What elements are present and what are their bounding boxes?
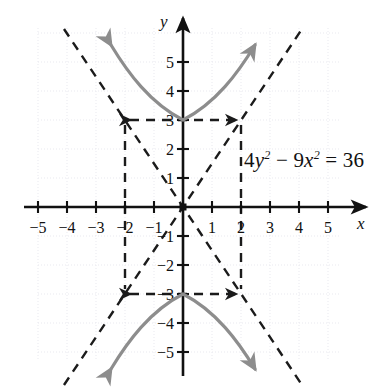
- x-tick-label: 4: [295, 219, 303, 236]
- equation-exp-y: 2: [264, 148, 270, 162]
- equation-annotation: 4y2 − 9x2 = 36: [244, 148, 364, 173]
- origin-marker: [180, 204, 187, 211]
- y-axis-label: y: [160, 12, 168, 32]
- y-tick-label: 5: [166, 54, 174, 71]
- equation-exp-x: 2: [314, 148, 320, 162]
- equation-var-y: y: [255, 148, 265, 172]
- y-tick-label: −1: [157, 228, 174, 245]
- x-tick-label: −2: [116, 219, 133, 236]
- equation-equals: =: [325, 148, 337, 172]
- graph-canvas: −5 −4 −3 −2 −1 1 2 3 4 5 5 4 3 2 1 −1 −2…: [0, 0, 388, 389]
- x-tick-label: −4: [58, 219, 75, 236]
- equation-rhs: 36: [343, 148, 364, 172]
- x-tick-label: 2: [237, 219, 245, 236]
- y-tick-label: −2: [157, 257, 174, 274]
- equation-coef-y: 4: [244, 148, 255, 172]
- y-tick-label: −5: [157, 344, 174, 361]
- hyperbola-figure: −5 −4 −3 −2 −1 1 2 3 4 5 5 4 3 2 1 −1 −2…: [0, 0, 388, 389]
- y-tick-label: 1: [166, 170, 174, 187]
- equation-var-x: x: [304, 148, 314, 172]
- y-tick-label: 4: [166, 83, 174, 100]
- equation-minus: −: [276, 148, 288, 172]
- x-tick-label: 1: [208, 219, 216, 236]
- x-tick-labels: −5 −4 −3 −2 −1 1 2 3 4 5: [29, 219, 332, 236]
- x-tick-label: 5: [324, 219, 332, 236]
- x-tick-label: −5: [29, 219, 46, 236]
- y-tick-label: −4: [157, 315, 174, 332]
- x-axis-label: x: [357, 214, 365, 234]
- x-tick-label: −3: [87, 219, 104, 236]
- x-tick-label: 3: [266, 219, 274, 236]
- grid-lines: [38, 28, 340, 360]
- equation-coef-x: 9: [293, 148, 304, 172]
- y-tick-label: 2: [166, 141, 174, 158]
